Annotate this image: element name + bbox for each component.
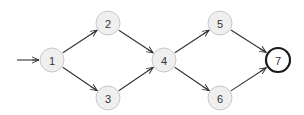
state-node-1: 1 [40, 48, 64, 72]
node-label: 4 [161, 55, 167, 67]
edge-3-to-4 [119, 67, 153, 90]
edge-1-to-3 [63, 67, 97, 90]
node-label: 7 [275, 55, 281, 67]
state-node-5: 5 [208, 11, 232, 35]
node-label: 5 [217, 18, 223, 30]
state-node-3: 3 [96, 86, 120, 110]
state-node-4: 4 [152, 48, 176, 72]
edge-5-to-7 [231, 30, 266, 52]
node-label: 3 [105, 93, 111, 105]
final-state-node-7: 7 [266, 48, 290, 72]
state-diagram: 1234567 [0, 0, 304, 115]
edge-4-to-6 [175, 67, 209, 90]
node-label: 1 [49, 55, 55, 67]
node-label: 2 [105, 18, 111, 30]
node-label: 6 [217, 93, 223, 105]
edge-1-to-2 [63, 30, 97, 53]
edge-6-to-7 [231, 68, 266, 91]
edge-4-to-5 [175, 30, 209, 53]
nodes: 1234567 [40, 11, 290, 110]
state-node-6: 6 [208, 86, 232, 110]
edge-2-to-4 [119, 30, 153, 53]
state-node-2: 2 [96, 11, 120, 35]
